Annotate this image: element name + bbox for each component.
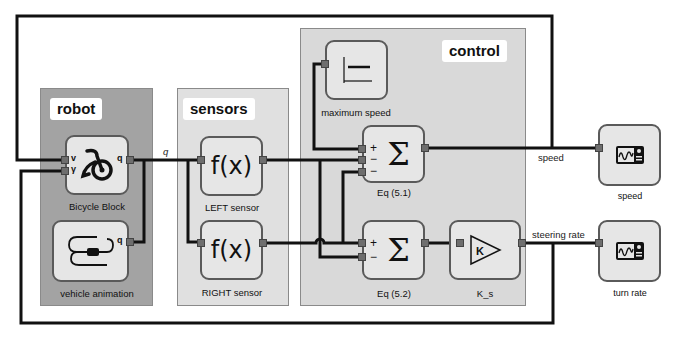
wire-label-steering-rate: steering rate xyxy=(532,229,585,240)
sum-glyph: Σ xyxy=(387,135,410,173)
speed-scope-label: speed xyxy=(618,191,643,201)
scope-icon xyxy=(615,145,645,165)
vehicle-path-icon xyxy=(67,231,115,271)
sign-minus: − xyxy=(370,154,377,164)
scope-icon xyxy=(615,241,645,261)
port-speed-scope-in[interactable] xyxy=(595,144,603,152)
right-sensor-block[interactable]: f(x) xyxy=(200,220,263,280)
ks-gain-block[interactable]: K xyxy=(449,220,521,280)
turn-rate-scope-block[interactable] xyxy=(598,220,661,282)
sign-minus: − xyxy=(370,252,377,262)
port-bicycle-v[interactable] xyxy=(61,156,69,164)
port-eq52-in-minus[interactable] xyxy=(358,253,366,261)
eq52-label: Eq (5.2) xyxy=(377,288,411,299)
left-sensor-block[interactable]: f(x) xyxy=(200,136,263,196)
wire-label-q: q xyxy=(163,146,168,157)
port-ks-in[interactable] xyxy=(456,239,464,247)
port-eq51-in-plus[interactable] xyxy=(358,145,366,153)
vehicle-animation-label: vehicle animation xyxy=(60,288,133,299)
block-diagram-canvas: robot sensors control xyxy=(0,0,676,339)
port-label-gamma: γ xyxy=(71,164,76,174)
sign-minus: − xyxy=(370,166,377,176)
sign-plus: + xyxy=(370,238,377,248)
port-vehicle-animation-q[interactable] xyxy=(126,238,134,246)
function-glyph: f(x) xyxy=(211,236,252,264)
maximum-speed-label: maximum speed xyxy=(321,107,391,118)
port-right-sensor-in[interactable] xyxy=(197,239,205,247)
port-label-q-anim: q xyxy=(117,235,123,245)
wire-label-speed: speed xyxy=(538,152,564,163)
function-glyph: f(x) xyxy=(211,152,252,180)
maximum-speed-block[interactable] xyxy=(325,40,388,100)
port-ks-out[interactable] xyxy=(518,239,526,247)
gain-triangle-icon: K xyxy=(467,233,503,267)
port-bicycle-gamma[interactable] xyxy=(61,167,69,175)
port-label-v: v xyxy=(71,153,76,163)
port-label-q: q xyxy=(117,153,123,163)
port-right-sensor-out[interactable] xyxy=(259,239,267,247)
port-eq51-in-minus-2[interactable] xyxy=(358,168,366,176)
right-sensor-label: RIGHT sensor xyxy=(202,287,263,298)
port-eq52-out[interactable] xyxy=(421,239,429,247)
port-left-sensor-in[interactable] xyxy=(197,156,205,164)
step-constant-icon xyxy=(340,55,374,85)
port-max-speed-out[interactable] xyxy=(321,60,329,68)
port-eq51-out[interactable] xyxy=(421,144,429,152)
bicycle-block-label: Bicycle Block xyxy=(69,201,125,212)
gain-k-glyph: K xyxy=(476,245,484,257)
bicycle-icon xyxy=(77,146,117,184)
sum-glyph: Σ xyxy=(387,231,410,269)
vehicle-animation-block[interactable] xyxy=(52,220,129,282)
port-eq51-in-minus-1[interactable] xyxy=(358,156,366,164)
port-eq52-in-plus[interactable] xyxy=(358,239,366,247)
ks-label: K_s xyxy=(477,288,493,299)
port-turn-rate-scope-in[interactable] xyxy=(595,239,603,247)
port-left-sensor-out[interactable] xyxy=(259,156,267,164)
turn-rate-scope-label: turn rate xyxy=(613,288,647,298)
eq51-label: Eq (5.1) xyxy=(377,187,411,198)
left-sensor-label: LEFT sensor xyxy=(205,202,259,213)
port-bicycle-q[interactable] xyxy=(126,156,134,164)
speed-scope-block[interactable] xyxy=(598,124,661,186)
